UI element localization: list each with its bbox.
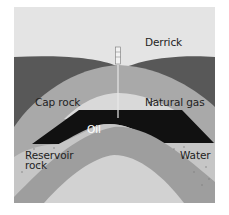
label-water: Water [180,150,211,161]
label-cap-rock: Cap rock [35,97,80,108]
derrick-icon [116,47,121,64]
oil-trap-diagram: Derrick Cap rock Natural gas Oil Reservo… [14,7,215,203]
label-reservoir-rock-line2: rock [25,160,47,171]
label-derrick: Derrick [145,37,182,48]
label-natural-gas: Natural gas [145,97,205,108]
label-oil: Oil [87,124,101,135]
